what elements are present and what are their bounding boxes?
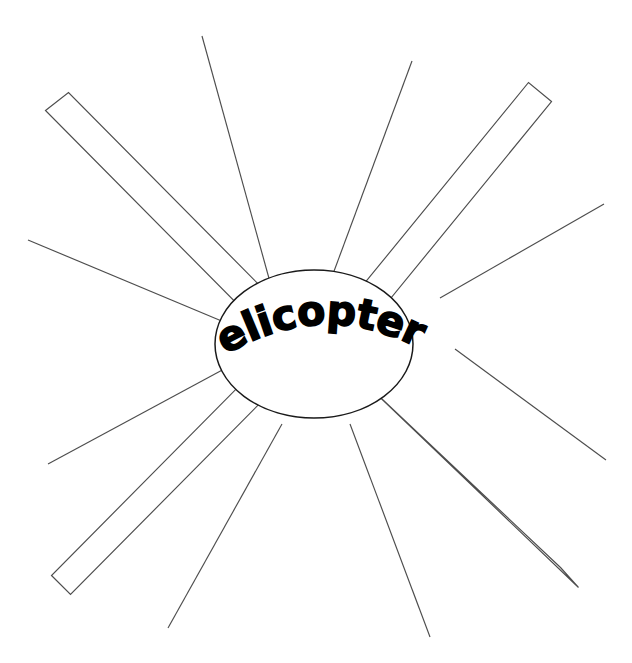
spoke-line-right-upper[interactable]	[440, 204, 604, 298]
spoke-bar-bottom-left[interactable]	[52, 366, 280, 595]
spoke-line-right-lower[interactable]	[455, 349, 606, 460]
center-topic-label: Helicopters	[0, 0, 434, 363]
spoke-line-bottom-right-steep[interactable]	[350, 424, 430, 637]
diagram-canvas: Helicopters	[0, 0, 632, 663]
word-web-diagram: Helicopters	[0, 0, 632, 663]
